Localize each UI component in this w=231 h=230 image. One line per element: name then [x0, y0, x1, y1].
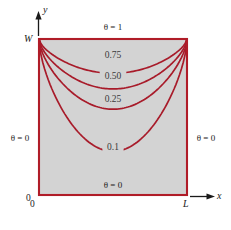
- bc-label-left: θ = 0: [11, 133, 30, 143]
- y-axis: y: [35, 4, 48, 36]
- isotherm-diagram: y x W L 0 0 θ = 1 θ = 0 θ = 0 θ = 0 0.75…: [0, 0, 231, 230]
- x-max-label-L: L: [182, 198, 189, 209]
- contour-label: 0.1: [107, 142, 119, 152]
- x-axis-label: x: [216, 190, 222, 201]
- plate-region: [39, 39, 187, 195]
- y-axis-arrowhead: [35, 11, 41, 20]
- bc-label-bottom: θ = 0: [104, 180, 123, 190]
- x-axis: x: [190, 190, 222, 201]
- contour-label: 0.25: [105, 94, 122, 104]
- x-axis-arrowhead: [207, 193, 216, 199]
- y-max-label-W: W: [24, 33, 34, 44]
- bc-label-right: θ = 0: [197, 133, 216, 143]
- contour-label: 0.75: [105, 50, 122, 60]
- origin-label-x: 0: [30, 199, 35, 209]
- contour-label: 0.50: [105, 71, 122, 81]
- figure-container: y x W L 0 0 θ = 1 θ = 0 θ = 0 θ = 0 0.75…: [0, 0, 231, 230]
- bc-label-top: θ = 1: [104, 22, 122, 32]
- y-axis-label: y: [42, 4, 48, 15]
